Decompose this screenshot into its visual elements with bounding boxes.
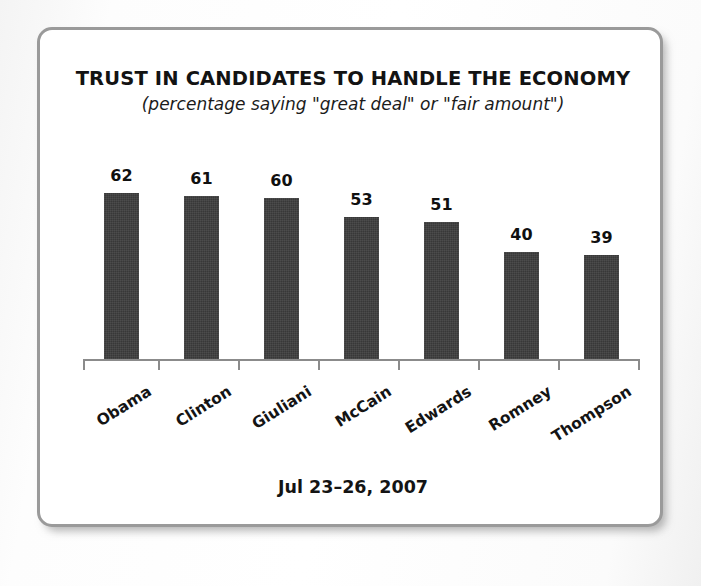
bar-value-label: 51 xyxy=(412,197,472,213)
x-axis-tick xyxy=(398,361,400,370)
x-axis-tick xyxy=(238,361,240,370)
survey-date-label: Jul 23–26, 2007 xyxy=(40,477,666,497)
bar-value-label: 62 xyxy=(92,168,152,184)
x-axis-tick xyxy=(158,361,160,370)
bar xyxy=(104,193,139,359)
x-axis-tick xyxy=(83,361,85,370)
bar-value-label: 39 xyxy=(572,230,632,246)
x-axis-category-label: McCain xyxy=(249,382,394,482)
bar-value-label: 40 xyxy=(492,227,552,243)
bar-value-label: 60 xyxy=(252,173,312,189)
bar-value-label: 61 xyxy=(172,171,232,187)
x-axis-tick xyxy=(638,361,640,370)
x-axis-category-label: Obama xyxy=(9,382,154,482)
bar xyxy=(344,217,379,359)
scanned-page: TRUST IN CANDIDATES TO HANDLE THE ECONOM… xyxy=(0,0,701,586)
bar xyxy=(424,222,459,359)
x-axis-line xyxy=(83,359,640,361)
bar xyxy=(504,252,539,359)
bar-chart-plot-area: 62Obama61Clinton60Giuliani53McCain51Edwa… xyxy=(40,30,666,530)
bar xyxy=(184,196,219,359)
x-axis-tick xyxy=(478,361,480,370)
x-axis-category-label: Clinton xyxy=(89,382,234,482)
x-axis-tick xyxy=(318,361,320,370)
bar xyxy=(264,198,299,359)
x-axis-tick xyxy=(558,361,560,370)
bar xyxy=(584,255,619,359)
x-axis-category-label: Thompson xyxy=(489,382,634,482)
chart-card-frame: TRUST IN CANDIDATES TO HANDLE THE ECONOM… xyxy=(37,27,663,527)
x-axis-category-label: Romney xyxy=(409,382,554,482)
x-axis-category-label: Giuliani xyxy=(169,382,314,482)
bar-value-label: 53 xyxy=(332,192,392,208)
x-axis-category-label: Edwards xyxy=(329,382,474,482)
